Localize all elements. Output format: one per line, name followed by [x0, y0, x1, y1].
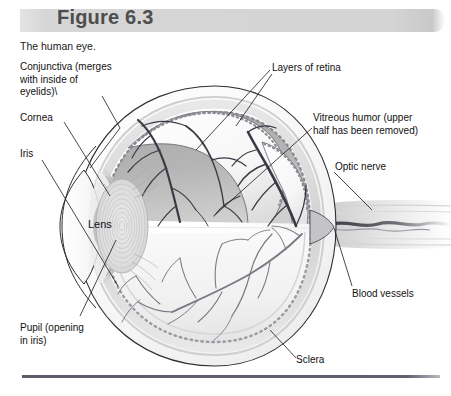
label-sclera: Sclera	[296, 354, 324, 367]
label-optic-nerve: Optic nerve	[335, 161, 386, 174]
label-layers-of-retina: Layers of retina	[272, 62, 341, 75]
label-lens: Lens	[88, 218, 112, 231]
label-conjunctiva: Conjunctiva (merges with inside of eyeli…	[20, 61, 112, 99]
figure-root: Figure 6.3 The human eye.	[0, 0, 451, 396]
label-iris: Iris	[20, 148, 33, 161]
figure-bottom-rule	[22, 375, 440, 378]
label-cornea: Cornea	[20, 112, 53, 125]
label-vitreous-humor: Vitreous humor (upper half has been remo…	[313, 112, 418, 137]
optic-nerve-shape	[330, 200, 451, 249]
label-pupil: Pupil (opening in iris)	[20, 322, 84, 347]
label-blood-vessels: Blood vessels	[352, 288, 414, 301]
